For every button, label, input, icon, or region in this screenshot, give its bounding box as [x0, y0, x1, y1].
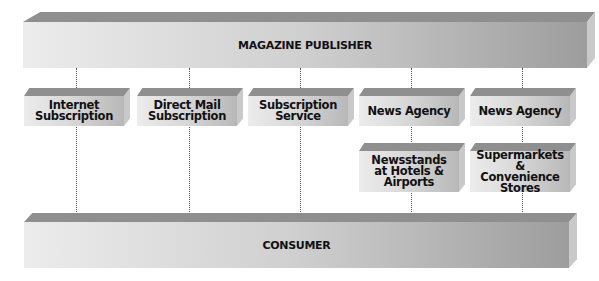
consumer-label: CONSUMER: [262, 239, 330, 252]
channel-direct-mail-label: Direct Mail Subscription: [137, 96, 237, 126]
side-face: [459, 143, 465, 192]
publisher-front: MAGAZINE PUBLISHER: [23, 22, 587, 68]
top-face: [470, 88, 576, 96]
channel-news-agency-2-label: News Agency: [470, 96, 570, 126]
outlet-newsstands-label: Newsstands at Hotels & Airports: [359, 151, 459, 192]
channel-news-agency-1-label: News Agency: [359, 96, 459, 126]
consumer-side-face: [569, 213, 577, 268]
channel-subscription-service-label: Subscription Service: [248, 96, 348, 126]
publisher-top-face: [23, 12, 595, 22]
top-face: [359, 143, 465, 151]
channel-internet-label: Internet Subscription: [24, 96, 124, 126]
top-face: [359, 88, 465, 96]
outlet-supermarkets-label: Supermarkets & Convenience Stores: [470, 151, 570, 192]
top-face: [24, 88, 130, 96]
consumer-top-face: [24, 213, 577, 222]
publisher-label: MAGAZINE PUBLISHER: [238, 39, 372, 52]
top-face: [248, 88, 354, 96]
consumer-front: CONSUMER: [24, 222, 569, 268]
side-face: [570, 143, 576, 192]
top-face: [137, 88, 243, 96]
